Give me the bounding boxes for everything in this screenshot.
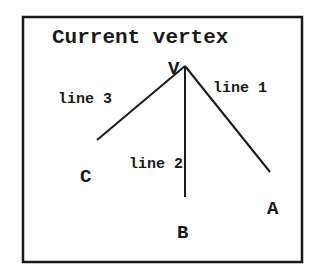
endpoint-c-label: C bbox=[80, 166, 91, 188]
line-2-label: line 2 bbox=[129, 156, 183, 173]
vertex-label: V bbox=[168, 58, 180, 80]
diagram-title: Current vertex bbox=[52, 26, 229, 49]
frame-box bbox=[23, 17, 302, 262]
endpoint-a-label: A bbox=[267, 198, 279, 220]
endpoint-b-label: B bbox=[177, 222, 188, 244]
line-1-label: line 1 bbox=[213, 80, 267, 97]
line-3-label: line 3 bbox=[58, 91, 112, 108]
diagram-canvas: Current vertex V line 1 line 2 line 3 A … bbox=[0, 0, 316, 271]
